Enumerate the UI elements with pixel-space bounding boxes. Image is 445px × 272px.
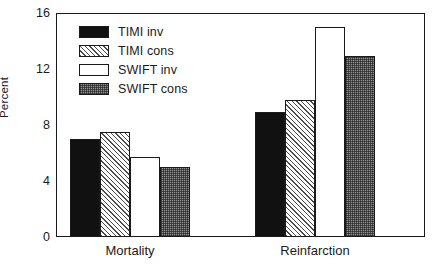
- bar-reinfarction-swift-cons: [345, 56, 375, 237]
- y-tick-label-16: 16: [4, 6, 50, 20]
- x-category-label-reinfarction: Reinfarction: [280, 243, 349, 258]
- legend-item-swift-inv: SWIFT inv: [79, 60, 188, 79]
- y-tick-label-12: 12: [4, 62, 50, 76]
- y-tick-label-8: 8: [4, 118, 50, 132]
- legend-swatch-solid-icon: [79, 26, 109, 38]
- x-category-label-mortality: Mortality: [105, 243, 154, 258]
- legend-item-timi-cons: TIMI cons: [79, 41, 188, 60]
- bar-reinfarction-timi-cons: [285, 100, 315, 237]
- bar-mortality-timi-cons: [100, 132, 130, 237]
- bar-mortality-swift-cons: [160, 167, 190, 237]
- y-tick-label-4: 4: [4, 174, 50, 188]
- bar-mortality-swift-inv: [130, 157, 160, 237]
- legend-label-timi-inv: TIMI inv: [118, 25, 163, 39]
- legend-swatch-check-icon: [79, 83, 109, 95]
- legend-label-swift-inv: SWIFT inv: [118, 63, 177, 77]
- y-tick-label-0: 0: [4, 230, 50, 244]
- legend-swatch-open-icon: [79, 64, 109, 76]
- bar-chart: Percent 16 12 8 4 0 Mortality Reinfarcti…: [0, 0, 445, 272]
- legend-item-swift-cons: SWIFT cons: [79, 79, 188, 98]
- bar-mortality-timi-inv: [70, 139, 100, 237]
- legend-label-timi-cons: TIMI cons: [118, 44, 174, 58]
- bar-reinfarction-swift-inv: [315, 27, 345, 237]
- legend-label-swift-cons: SWIFT cons: [118, 82, 188, 96]
- bar-reinfarction-timi-inv: [255, 112, 285, 237]
- legend: TIMI inv TIMI cons SWIFT inv SWIFT cons: [79, 22, 188, 98]
- legend-swatch-hatch-icon: [79, 45, 109, 57]
- legend-item-timi-inv: TIMI inv: [79, 22, 188, 41]
- y-axis-tick-labels: 16 12 8 4 0: [0, 0, 50, 272]
